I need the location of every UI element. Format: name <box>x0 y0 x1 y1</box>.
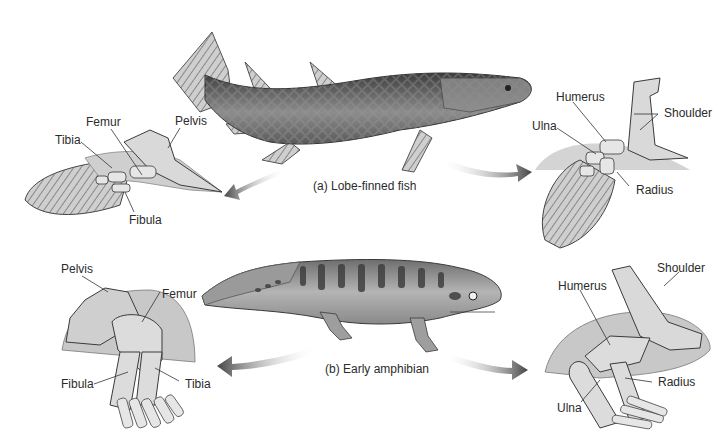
diagram-canvas: Femur Pelvis Tibia Fibula Humerus Should… <box>0 0 726 444</box>
arrow-to-hind-limb-icon <box>217 346 318 377</box>
label-fish-femur: Femur <box>86 116 121 128</box>
label-amphibian-pelvis: Pelvis <box>61 263 93 275</box>
label-amphibian-fibula: Fibula <box>61 378 94 390</box>
label-fish-pelvis: Pelvis <box>175 115 207 127</box>
arrow-to-pelvic-fin-icon <box>224 168 286 200</box>
label-fish-tibia: Tibia <box>55 134 81 146</box>
arrow-to-fore-limb-icon <box>443 352 528 380</box>
label-fish-fibula: Fibula <box>129 214 162 226</box>
label-amphibian-femur: Femur <box>162 288 197 300</box>
label-fish-shoulder: Shoulder <box>664 107 712 119</box>
early-amphibian-illustration <box>202 260 501 352</box>
label-amphibian-humerus: Humerus <box>558 280 607 292</box>
caption-lobe-finned-fish: (a) Lobe-finned fish <box>313 180 416 192</box>
amphibian-hind-limb-illustration <box>62 288 195 429</box>
label-fish-radius: Radius <box>636 184 673 196</box>
diagram-artwork <box>0 0 726 444</box>
arrow-to-pectoral-fin-icon <box>440 158 532 182</box>
label-amphibian-tibia: Tibia <box>185 378 211 390</box>
caption-early-amphibian: (b) Early amphibian <box>325 363 429 375</box>
label-amphibian-shoulder: Shoulder <box>657 262 705 274</box>
label-amphibian-radius: Radius <box>658 376 695 388</box>
label-fish-ulna: Ulna <box>532 120 557 132</box>
label-fish-humerus: Humerus <box>556 91 605 103</box>
label-amphibian-ulna: Ulna <box>557 402 582 414</box>
lobe-finned-fish-illustration <box>173 32 531 172</box>
